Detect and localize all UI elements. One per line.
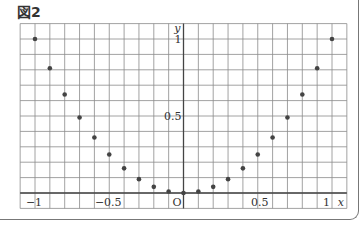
origin-label: O <box>172 196 181 209</box>
data-point <box>152 185 157 190</box>
data-point <box>196 189 201 194</box>
axis-labels: −1−0.50.51x0.51yO <box>26 22 345 209</box>
data-point <box>241 166 246 171</box>
y-tick-label: 0.5 <box>164 110 182 123</box>
x-tick-label: −1 <box>26 196 42 209</box>
x-axis-label: x <box>338 196 345 209</box>
y-axis-label: y <box>173 22 181 35</box>
data-point <box>122 166 127 171</box>
data-point <box>166 189 171 194</box>
data-point <box>107 152 112 157</box>
data-point <box>330 37 335 42</box>
data-point <box>285 115 290 120</box>
data-point <box>226 177 231 182</box>
x-tick-label: 1 <box>323 196 330 209</box>
data-point <box>33 37 38 42</box>
data-point <box>137 177 142 182</box>
y-tick-label: 1 <box>175 33 182 46</box>
x-tick-label: 0.5 <box>251 196 269 209</box>
data-point <box>48 66 53 71</box>
data-point <box>270 135 275 140</box>
data-point <box>62 92 67 97</box>
data-point <box>181 191 186 196</box>
data-point <box>315 66 320 71</box>
data-point <box>255 152 260 157</box>
data-point <box>92 135 97 140</box>
data-point <box>300 92 305 97</box>
data-point <box>77 115 82 120</box>
scatter-chart: −1−0.50.51x0.51yO <box>0 0 363 226</box>
data-point <box>211 185 216 190</box>
x-tick-label: −0.5 <box>95 196 122 209</box>
